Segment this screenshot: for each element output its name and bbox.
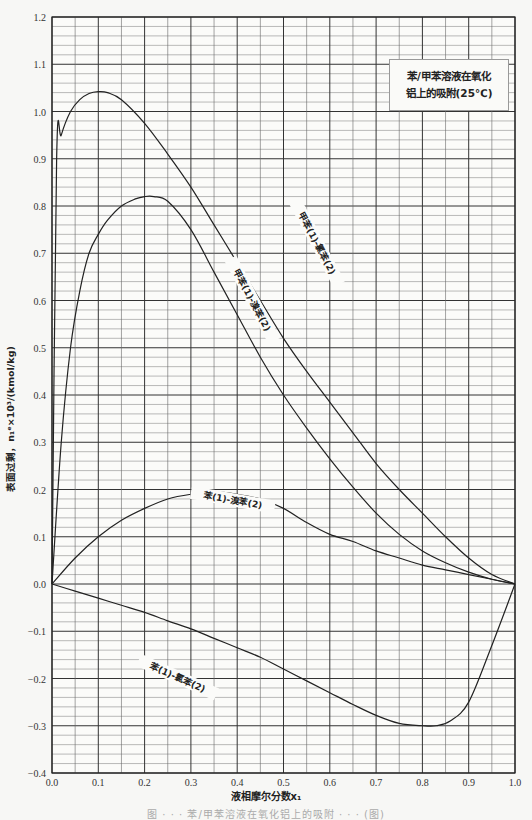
y-tick-label: −0.4 [28, 768, 46, 779]
chart-title-line-2: 铝上的吸附(25℃) [390, 85, 508, 102]
adsorption-chart: 1.21.11.00.90.80.70.60.50.40.30.20.10.0−… [0, 0, 532, 820]
y-tick-label: 1.0 [34, 107, 47, 118]
x-tick-label: 0.3 [185, 777, 198, 788]
x-tick-label: 0.2 [138, 777, 151, 788]
x-tick-label: 0.6 [324, 777, 337, 788]
y-tick-label: 0.9 [34, 154, 47, 165]
x-tick-label: 0.7 [370, 777, 383, 788]
figure-caption: 图 · · · 苯/甲苯溶液在氧化铝上的吸附 · · · (图) [0, 806, 532, 820]
chart-title-box: 苯/甲苯溶液在氧化 铝上的吸附(25℃) [389, 59, 509, 111]
y-tick-label: 0.8 [34, 201, 47, 212]
y-tick-label: −0.2 [28, 674, 46, 685]
y-tick-label: 0.3 [34, 437, 47, 448]
y-tick-label: 0.7 [34, 248, 47, 259]
y-axis-label: 表面过剩，n₁ᵉ×10³/(kmol/kg) [3, 299, 17, 539]
y-tick-label: −0.1 [28, 626, 46, 637]
y-tick-label: −0.3 [28, 721, 46, 732]
x-tick-label: 0.0 [46, 777, 59, 788]
y-tick-label: 0.4 [34, 390, 47, 401]
y-tick-label: 1.1 [34, 59, 47, 70]
y-tick-label: 0.2 [34, 485, 47, 496]
x-tick-label: 0.9 [462, 777, 475, 788]
y-tick-label: 0.5 [34, 343, 47, 354]
x-tick-label: 0.1 [92, 777, 105, 788]
x-tick-label: 1.0 [509, 777, 522, 788]
chart-title-line-1: 苯/甲苯溶液在氧化 [390, 68, 508, 85]
y-tick-label: 1.2 [34, 12, 47, 23]
x-axis-label: 液相摩尔分数x₁ [0, 788, 532, 803]
x-tick-label: 0.4 [231, 777, 244, 788]
x-tick-label: 0.5 [277, 777, 290, 788]
y-tick-label: 0.1 [34, 532, 47, 543]
y-tick-label: 0.6 [34, 296, 47, 307]
x-tick-label: 0.8 [416, 777, 429, 788]
y-tick-label: 0.0 [34, 579, 47, 590]
